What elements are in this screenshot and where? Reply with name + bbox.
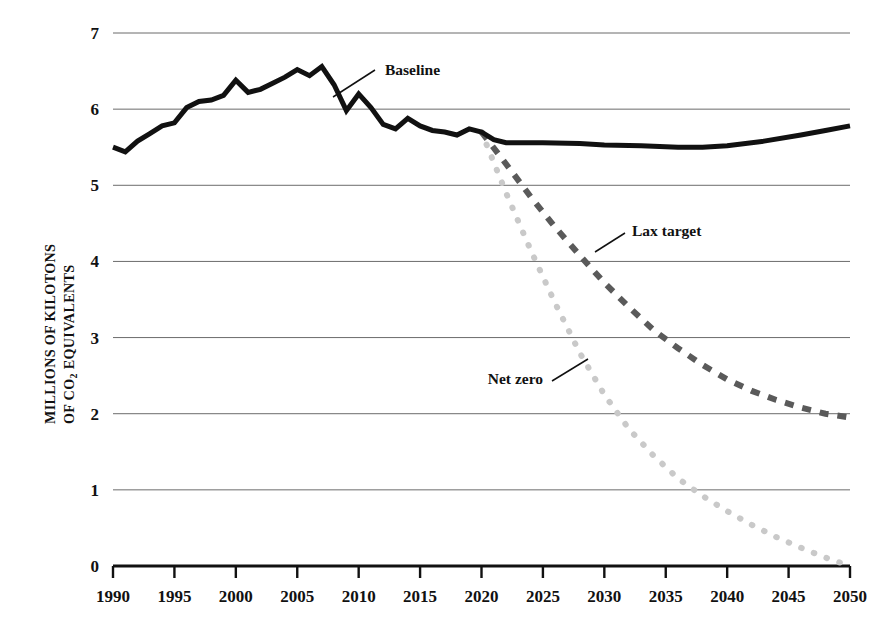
annotation-label-lax-target: Lax target — [632, 222, 702, 239]
leader-line-net-zero — [552, 359, 588, 381]
x-tick-label-1995: 1995 — [157, 587, 191, 606]
leader-line-lax-target — [595, 233, 625, 252]
series-line-net-zero — [482, 132, 851, 566]
x-tick-label-2005: 2005 — [280, 587, 314, 606]
x-tick-marks — [113, 566, 850, 578]
x-tick-label-2015: 2015 — [403, 587, 437, 606]
x-tick-label-2010: 2010 — [342, 587, 376, 606]
y-tick-label-1: 1 — [91, 481, 100, 500]
y-tick-label-0: 0 — [91, 557, 100, 576]
x-tick-label-1990: 1990 — [96, 587, 130, 606]
annotation-label-baseline: Baseline — [385, 61, 440, 78]
x-tick-label-2045: 2045 — [772, 587, 806, 606]
x-tick-labels: 1990199520002005201020152020202520302035… — [96, 587, 867, 606]
gridlines — [113, 33, 850, 490]
y-tick-label-6: 6 — [91, 100, 100, 119]
y-tick-label-4: 4 — [91, 252, 100, 271]
x-tick-label-2035: 2035 — [649, 587, 683, 606]
y-tick-label-7: 7 — [91, 24, 100, 43]
x-tick-label-2050: 2050 — [833, 587, 867, 606]
emissions-projection-chart: MILLIONS OF KILOTONS OF CO2 EQUIVALENTS … — [0, 0, 881, 637]
y-tick-label-5: 5 — [91, 176, 100, 195]
series-net-zero — [482, 132, 851, 566]
y-tick-label-3: 3 — [91, 329, 100, 348]
x-tick-label-2020: 2020 — [465, 587, 499, 606]
x-tick-label-2000: 2000 — [219, 587, 253, 606]
x-tick-label-2040: 2040 — [710, 587, 744, 606]
x-tick-label-2030: 2030 — [587, 587, 621, 606]
y-tick-labels: 01234567 — [91, 24, 100, 576]
annotation-label-net-zero: Net zero — [488, 370, 543, 387]
annotations: BaselineLax targetNet zero — [333, 61, 702, 387]
leader-line-baseline — [333, 70, 375, 97]
x-tick-label-2025: 2025 — [526, 587, 560, 606]
plot-area: 01234567 1990199520002005201020152020202… — [0, 0, 881, 637]
y-tick-label-2: 2 — [91, 405, 100, 424]
